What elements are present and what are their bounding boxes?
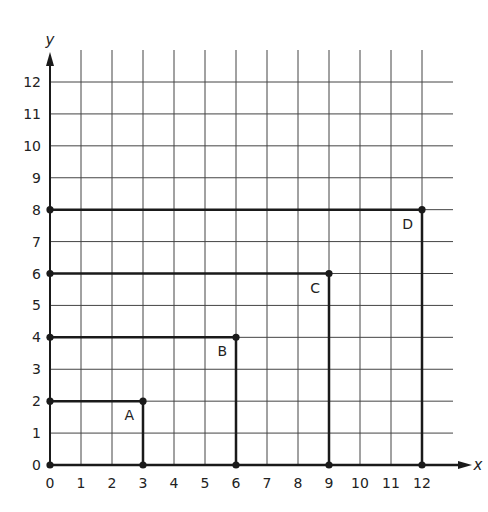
rectangle-label-a: A <box>124 407 134 423</box>
point <box>46 461 53 468</box>
point <box>46 398 53 405</box>
point <box>46 206 53 213</box>
y-tick-label: 5 <box>32 297 41 313</box>
y-tick-label: 9 <box>32 170 41 186</box>
y-tick-label: 7 <box>32 234 41 250</box>
x-tick-label: 2 <box>108 475 117 491</box>
y-tick-label: 10 <box>23 138 41 154</box>
point <box>232 334 239 341</box>
y-tick-label: 6 <box>32 266 41 282</box>
point <box>46 334 53 341</box>
rectangle-label-b: B <box>217 343 227 359</box>
x-tick-label: 9 <box>325 475 334 491</box>
coordinate-grid-chart: 01234567891011120123456789101112 ABCD x … <box>0 0 488 512</box>
x-tick-label: 8 <box>294 475 303 491</box>
x-tick-label: 3 <box>139 475 148 491</box>
x-axis-label: x <box>473 456 483 474</box>
y-tick-label: 2 <box>32 393 41 409</box>
x-tick-label: 1 <box>77 475 86 491</box>
axes <box>46 52 472 469</box>
x-tick-label: 12 <box>413 475 431 491</box>
point <box>139 461 146 468</box>
tick-labels: 01234567891011120123456789101112 <box>23 74 431 491</box>
rectangle-label-d: D <box>402 216 413 232</box>
point <box>418 461 425 468</box>
point <box>325 270 332 277</box>
point <box>46 270 53 277</box>
y-tick-label: 11 <box>23 106 41 122</box>
y-tick-label: 4 <box>32 329 41 345</box>
point <box>418 206 425 213</box>
x-tick-label: 0 <box>46 475 55 491</box>
x-tick-label: 11 <box>382 475 400 491</box>
x-tick-label: 6 <box>232 475 241 491</box>
x-tick-label: 7 <box>263 475 272 491</box>
x-tick-label: 4 <box>170 475 179 491</box>
y-tick-label: 12 <box>23 74 41 90</box>
x-tick-label: 10 <box>351 475 369 491</box>
point <box>325 461 332 468</box>
rectangle-label-c: C <box>310 280 320 296</box>
point <box>139 398 146 405</box>
y-tick-label: 1 <box>32 425 41 441</box>
y-axis-label: y <box>45 31 56 49</box>
grid-lines <box>50 50 453 465</box>
y-tick-label: 0 <box>32 457 41 473</box>
x-tick-label: 5 <box>201 475 210 491</box>
y-tick-label: 3 <box>32 361 41 377</box>
x-axis-arrow-icon <box>458 461 472 469</box>
y-axis-arrow-icon <box>46 52 54 66</box>
y-tick-label: 8 <box>32 202 41 218</box>
point <box>232 461 239 468</box>
